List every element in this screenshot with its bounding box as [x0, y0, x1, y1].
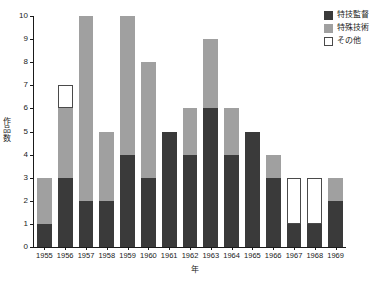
bar-group [183, 16, 198, 247]
bar-segment [99, 201, 114, 247]
bar-segment [58, 178, 73, 247]
x-tick-mark [44, 247, 45, 250]
bar-segment [99, 132, 114, 201]
bar-segment [162, 132, 177, 248]
y-tick-mark [30, 85, 33, 86]
legend-item[interactable]: 特技監督 [324, 9, 386, 21]
bar-segment [287, 178, 302, 224]
y-tick-label: 0 [6, 243, 28, 251]
x-tick-mark [211, 247, 212, 250]
bar-segment [120, 16, 135, 155]
y-tick-mark [30, 155, 33, 156]
bar-segment [183, 108, 198, 154]
x-tick-mark [273, 247, 274, 250]
bar-segment [266, 178, 281, 247]
y-tick-mark [30, 132, 33, 133]
y-tick-mark [30, 16, 33, 17]
x-tick-mark [294, 247, 295, 250]
bar-segment [224, 155, 239, 247]
bar-segment [37, 178, 52, 224]
bar-segment [120, 155, 135, 247]
x-tick-mark [65, 247, 66, 250]
bar-segment [37, 224, 52, 247]
bar-group [58, 16, 73, 247]
y-tick-label: 7 [6, 81, 28, 89]
bar-group [245, 16, 260, 247]
x-axis-title: 年 [0, 266, 390, 274]
y-axis-title: 作品数 [2, 118, 12, 143]
bar-segment [328, 201, 343, 247]
bar-segment [203, 108, 218, 247]
y-tick-mark [30, 201, 33, 202]
bar-segment [183, 155, 198, 247]
bar-segment [58, 85, 73, 108]
x-tick-mark [190, 247, 191, 250]
y-tick-label: 9 [6, 35, 28, 43]
x-tick-mark [252, 247, 253, 250]
bar-group [162, 16, 177, 247]
y-tick-label: 8 [6, 58, 28, 66]
bar-group [141, 16, 156, 247]
x-tick-mark [148, 247, 149, 250]
y-tick-label: 2 [6, 197, 28, 205]
y-tick-label: 4 [6, 151, 28, 159]
bar-segment [141, 178, 156, 247]
bar-segment [266, 155, 281, 178]
bar-segment [79, 16, 94, 201]
legend-swatch-icon [324, 11, 333, 20]
chart-legend: 特技監督特殊技術その他 [324, 9, 386, 48]
bar-segment [307, 224, 322, 247]
y-tick-mark [30, 62, 33, 63]
bar-segment [245, 132, 260, 248]
bar-group [328, 16, 343, 247]
y-tick-mark [30, 247, 33, 248]
x-tick-mark [86, 247, 87, 250]
bar-chart: 012345678910 195519561957195819591960196… [0, 0, 390, 283]
bar-segment [58, 108, 73, 177]
y-tick-label: 6 [6, 104, 28, 112]
y-tick-mark [30, 108, 33, 109]
bar-group [37, 16, 52, 247]
bar-group [79, 16, 94, 247]
x-tick-mark [107, 247, 108, 250]
bar-segment [328, 178, 343, 201]
x-tick-mark [315, 247, 316, 250]
bar-segment [141, 62, 156, 178]
y-tick-mark [30, 39, 33, 40]
legend-item-label: 特殊技術 [337, 24, 369, 32]
legend-item[interactable]: その他 [324, 35, 386, 47]
x-tick-mark [232, 247, 233, 250]
bar-segment [79, 201, 94, 247]
bar-group [99, 16, 114, 247]
bar-segment [203, 39, 218, 108]
y-tick-mark [30, 224, 33, 225]
bar-group [266, 16, 281, 247]
x-tick-mark [128, 247, 129, 250]
bar-segment [287, 224, 302, 247]
bar-segment [307, 178, 322, 224]
legend-item[interactable]: 特殊技術 [324, 22, 386, 34]
x-tick-mark [336, 247, 337, 250]
bar-group [307, 16, 322, 247]
bar-group [224, 16, 239, 247]
legend-swatch-icon [324, 24, 333, 33]
legend-swatch-icon [324, 37, 333, 46]
x-tick-label: 1969 [322, 252, 350, 260]
bar-group [120, 16, 135, 247]
bar-segment [224, 108, 239, 154]
legend-item-label: 特技監督 [337, 11, 369, 19]
legend-item-label: その他 [337, 37, 361, 45]
plot-area [34, 16, 346, 247]
y-tick-label: 3 [6, 174, 28, 182]
y-axis-title-char: 数 [2, 135, 12, 143]
y-tick-mark [30, 178, 33, 179]
bar-group [203, 16, 218, 247]
y-tick-label: 1 [6, 220, 28, 228]
bar-group [287, 16, 302, 247]
y-tick-label: 10 [6, 12, 28, 20]
x-tick-mark [169, 247, 170, 250]
